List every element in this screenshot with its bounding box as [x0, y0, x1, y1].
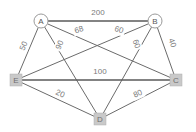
edge-weight-e-c: 100 [92, 67, 109, 77]
edge-weight-a-b: 200 [90, 8, 107, 18]
edge-weight-d-c: 80 [130, 87, 145, 101]
node-label-a: A [38, 17, 44, 26]
edge-weight-a-e: 50 [17, 38, 31, 53]
graph-diagram: ABCDE 2006890506060401002080 [0, 0, 196, 132]
node-d[interactable]: D [94, 113, 106, 125]
node-a[interactable]: A [34, 14, 48, 28]
edge-weight-text: 200 [91, 8, 105, 17]
edge-weight-a-d: 90 [53, 37, 67, 52]
edge-weight-b-e: 60 [112, 23, 127, 36]
edge-weight-b-d: 60 [129, 36, 143, 51]
node-b[interactable]: B [148, 14, 162, 28]
graph-svg: ABCDE 2006890506060401002080 [0, 0, 196, 132]
edge-weight-text: 100 [93, 67, 107, 76]
node-label-d: D [97, 115, 103, 124]
edge-a-d [45, 27, 97, 114]
edge-weight-e-d: 20 [52, 87, 67, 101]
node-c[interactable]: C [170, 74, 182, 86]
edge-a-c [47, 24, 170, 78]
edge-b-c [157, 28, 174, 75]
edge-weight-b-c: 40 [165, 36, 179, 51]
node-label-b: B [152, 17, 157, 26]
node-label-c: C [173, 76, 179, 85]
node-label-e: E [13, 76, 18, 85]
edge-weight-a-c: 68 [72, 23, 87, 36]
node-e[interactable]: E [10, 74, 22, 86]
